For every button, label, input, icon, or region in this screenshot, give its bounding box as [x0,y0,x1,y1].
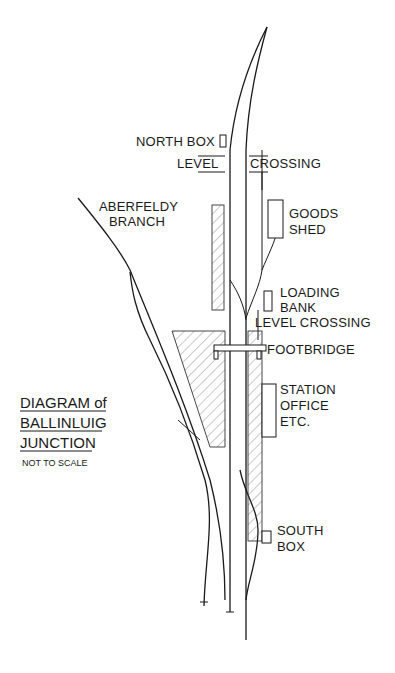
label-office: OFFICE [280,398,329,413]
title-block: DIAGRAM of BALLINLUIG JUNCTION NOT TO SC… [20,394,108,468]
label-footbridge: FOOTBRIDGE [267,342,355,357]
label-goods: GOODS [289,206,339,221]
south-box-building [262,531,271,543]
label-loading: LOADING [280,285,340,300]
footbridge-stair-left [214,351,218,359]
platform-main [248,331,262,541]
footbridge-stair-right [257,351,261,359]
label-bank: BANK [280,300,316,315]
title-line-2: BALLINLUIG [20,414,107,431]
subtitle: NOT TO SCALE [22,458,88,468]
label-box: BOX [277,539,305,554]
north-box-building [220,135,226,147]
label-level-crossing: LEVEL CROSSING [255,315,371,330]
platform-north-left [212,205,224,310]
junction-diagram: NORTH BOX LEVEL CROSSING ABERFELDY BRANC… [0,0,395,673]
loading-bank-building [264,291,272,311]
title-line-1: DIAGRAM of [20,394,108,411]
footbridge-deck [214,345,266,351]
label-branch: BRANCH [109,214,165,229]
label-etc: ETC. [280,414,310,429]
label-north-box: NORTH BOX [136,134,215,149]
station-office-building [262,384,276,437]
label-south: SOUTH [277,523,324,538]
goods-siding [246,150,262,318]
branch-track-inner [130,272,209,606]
label-crossing: CROSSING [250,156,321,171]
siding-left-curve [230,280,246,320]
title-line-3: JUNCTION [20,434,96,451]
label-station: STATION [280,382,336,397]
label-level: LEVEL [177,156,218,171]
goods-shed-building [268,200,283,238]
label-shed: SHED [289,222,326,237]
branch-crossover [178,420,200,440]
label-aberfeldy: ABERFELDY [99,199,178,214]
